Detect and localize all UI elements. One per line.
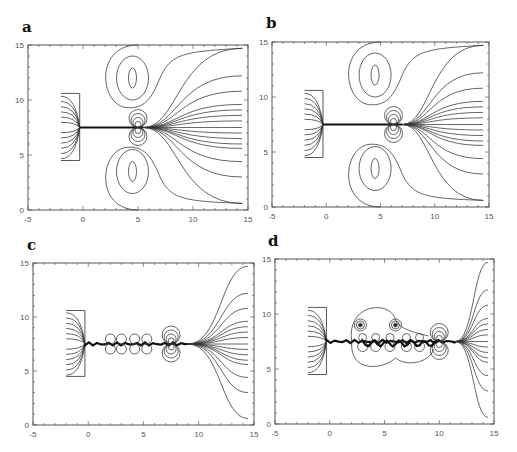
y-tick-label: 15 [259, 38, 268, 47]
y-tick-label: 0 [267, 420, 272, 429]
x-tick-label: -5 [271, 429, 279, 438]
y-tick-label: 5 [20, 151, 25, 160]
y-tick-label: 10 [15, 96, 24, 105]
y-tick-label: 10 [20, 313, 29, 322]
x-tick-label: 15 [244, 215, 253, 224]
x-tick-label: 0 [324, 212, 329, 221]
y-tick-label: 5 [25, 367, 30, 376]
x-tick-label: 5 [378, 212, 383, 221]
y-tick-label: 15 [15, 41, 24, 50]
y-tick-label: 10 [259, 93, 268, 102]
y-tick-label: 15 [20, 259, 29, 268]
x-tick-label: 5 [382, 429, 387, 438]
x-tick-label: 10 [430, 212, 439, 221]
contour-figure: -5051015051015-5051015051015-50510150510… [0, 0, 517, 452]
x-tick-label: 5 [136, 215, 141, 224]
panel-d: -5051015051015 [262, 255, 499, 438]
x-tick-label: -5 [268, 212, 276, 221]
y-tick-label: 0 [25, 421, 30, 430]
x-tick-label: 0 [81, 215, 86, 224]
panel-c: -5051015051015 [20, 259, 259, 439]
y-tick-label: 15 [262, 255, 271, 264]
x-tick-label: 15 [250, 430, 259, 439]
x-tick-label: -5 [29, 430, 37, 439]
y-tick-label: 0 [20, 206, 25, 215]
x-tick-label: 10 [189, 215, 198, 224]
x-tick-label: 15 [490, 429, 499, 438]
x-tick-label: 0 [86, 430, 91, 439]
y-tick-label: 0 [264, 203, 269, 212]
y-tick-label: 10 [262, 310, 271, 319]
x-tick-label: -5 [24, 215, 32, 224]
x-tick-label: 10 [194, 430, 203, 439]
x-tick-label: 15 [485, 212, 494, 221]
y-tick-label: 5 [264, 148, 269, 157]
panel-b: -5051015051015 [259, 38, 494, 221]
x-tick-label: 0 [328, 429, 333, 438]
x-tick-label: 10 [435, 429, 444, 438]
panel-a: -5051015051015 [15, 41, 253, 224]
y-tick-label: 5 [267, 365, 272, 374]
x-tick-label: 5 [141, 430, 146, 439]
